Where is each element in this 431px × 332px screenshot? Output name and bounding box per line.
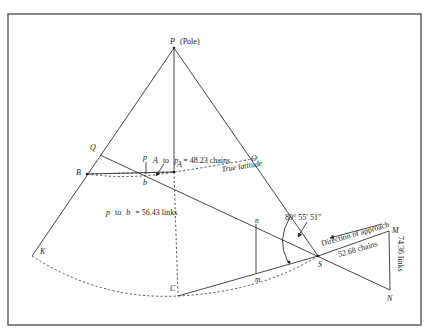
line-Q-to-N xyxy=(100,155,390,290)
point-A xyxy=(173,171,176,174)
point-B xyxy=(86,173,89,176)
label-pole: (Pole) xyxy=(180,37,200,46)
label-C: C xyxy=(170,284,176,293)
point-S xyxy=(317,255,320,258)
label-M: M xyxy=(391,226,400,235)
point-P xyxy=(173,47,176,50)
label-B: B xyxy=(76,168,81,177)
a-to-p-p: p xyxy=(173,156,178,165)
label-N: N xyxy=(386,294,393,303)
line-C-to-S xyxy=(178,256,318,296)
label-b: b xyxy=(143,178,147,187)
p-to-b-annotation: p to b = 56.43 links xyxy=(105,208,177,217)
offset-label: 74.36 links xyxy=(396,236,405,272)
p-to-b-p: p xyxy=(105,208,110,217)
angle-marker xyxy=(288,261,291,264)
meridian-right-line xyxy=(174,48,318,256)
p-to-b-b: b xyxy=(126,208,130,217)
a-to-p-annotation: A to p = 48.23 chains xyxy=(152,156,230,165)
line-B-to-A xyxy=(87,172,174,174)
label-P: P xyxy=(169,37,175,46)
a-to-p-to: to xyxy=(163,156,169,165)
angle-label: 89° 55′ 51″ xyxy=(285,213,321,222)
survey-diagram: P (Pole) Q B A O K C S M N p b n m A to … xyxy=(0,0,431,332)
label-K: K xyxy=(39,247,46,256)
label-n: n xyxy=(255,216,259,225)
meridian-left-line xyxy=(32,48,174,256)
diagram-frame xyxy=(8,14,421,325)
label-p: p xyxy=(142,153,147,162)
label-Q: Q xyxy=(90,143,96,152)
label-S: S xyxy=(318,260,322,269)
p-to-b-value: = 56.43 links xyxy=(135,208,177,217)
angle-arc xyxy=(282,217,290,262)
line-M-to-N xyxy=(389,231,390,290)
p-to-b-to: to xyxy=(115,208,121,217)
label-m: m xyxy=(255,275,261,284)
a-to-p-value: = 48.23 chains xyxy=(183,156,230,165)
a-to-p-A: A xyxy=(152,156,158,165)
